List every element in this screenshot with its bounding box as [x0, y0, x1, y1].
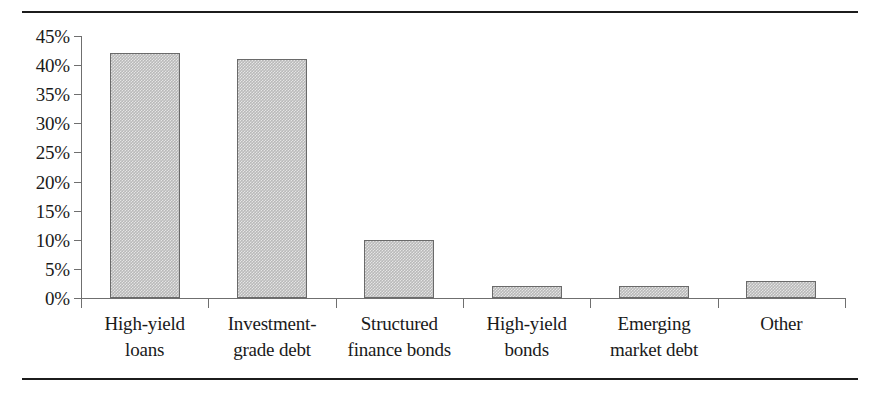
bar[interactable] [619, 286, 689, 298]
x-axis-category-label-line: Emerging [590, 311, 717, 337]
x-axis-category-label: Emergingmarket debt [590, 311, 717, 363]
y-axis-tick-label: 35% [36, 85, 70, 104]
bar[interactable] [364, 240, 434, 298]
x-axis-tick [718, 298, 719, 308]
x-axis-category-label-line: High-yield [81, 311, 208, 337]
y-axis-tick [74, 240, 82, 241]
bar-chart-plot: 0%5%10%15%20%25%30%35%40%45% High-yieldl… [0, 0, 880, 394]
y-axis-tick-label: 15% [36, 201, 70, 220]
y-axis-tick [74, 123, 82, 124]
x-axis-category-label-line: Structured [336, 311, 463, 337]
y-axis-tick [74, 269, 82, 270]
y-axis-tick-label: 10% [36, 230, 70, 249]
y-axis-tick-label: 40% [36, 56, 70, 75]
bar-slot [718, 36, 845, 298]
y-axis-tick-label: 0% [45, 289, 70, 308]
bar[interactable] [110, 53, 180, 298]
bar[interactable] [492, 286, 562, 298]
bar-slot [336, 36, 463, 298]
bar-slot [81, 36, 208, 298]
y-axis-tick [74, 94, 82, 95]
x-axis-category-label-line: Investment- [208, 311, 335, 337]
x-axis-category-label-line: market debt [590, 337, 717, 363]
x-axis-tick [590, 298, 591, 308]
x-axis-category-label: High-yieldloans [81, 311, 208, 363]
x-axis-tick [208, 298, 209, 308]
y-axis-tick-label: 30% [36, 114, 70, 133]
x-axis-category-label-line: High-yield [463, 311, 590, 337]
x-axis-tick [81, 298, 82, 308]
bar-slot [590, 36, 717, 298]
x-axis-category-label: Investment-grade debt [208, 311, 335, 363]
bar-slot [463, 36, 590, 298]
y-axis-tick [74, 152, 82, 153]
bar-slot [208, 36, 335, 298]
x-axis-category-label: High-yieldbonds [463, 311, 590, 363]
x-axis-category-label-line: Other [718, 311, 845, 337]
y-axis-tick-label: 20% [36, 172, 70, 191]
y-axis-tick [74, 36, 82, 37]
y-axis-tick-label: 25% [36, 143, 70, 162]
x-axis-tick [336, 298, 337, 308]
bar-series [81, 36, 845, 298]
y-axis-tick-labels: 0%5%10%15%20%25%30%35%40%45% [22, 36, 74, 298]
figure: 0%5%10%15%20%25%30%35%40%45% High-yieldl… [0, 0, 880, 394]
x-axis-category-labels: High-yieldloansInvestment-grade debtStru… [81, 311, 845, 371]
y-axis-tick [74, 211, 82, 212]
y-axis-tick-label: 45% [36, 27, 70, 46]
x-axis-tick [845, 298, 846, 308]
x-axis-category-label-line: grade debt [208, 337, 335, 363]
x-axis-category-label: Structuredfinance bonds [336, 311, 463, 363]
y-axis-tick [74, 182, 82, 183]
bar[interactable] [746, 281, 816, 298]
bar[interactable] [237, 59, 307, 298]
x-axis-category-label-line: bonds [463, 337, 590, 363]
x-axis-category-label: Other [718, 311, 845, 337]
x-axis-category-label-line: finance bonds [336, 337, 463, 363]
x-axis-category-label-line: loans [81, 337, 208, 363]
y-axis-tick [74, 65, 82, 66]
y-axis-tick-label: 5% [45, 259, 70, 278]
x-axis-tick [463, 298, 464, 308]
